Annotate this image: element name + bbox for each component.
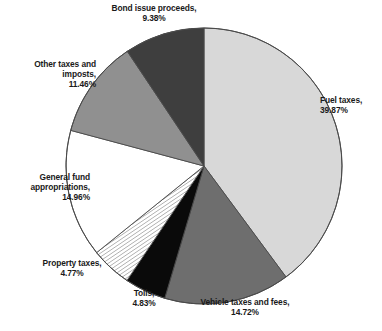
slice-label-vehicle-taxes-and-fees: Vehicle taxes and fees, 14.72% <box>180 297 310 317</box>
slice-label-other-taxes-and-imposts: Other taxes and imposts, 11.46% <box>2 59 96 90</box>
slice-label-fuel-taxes: Fuel taxes, 39.87% <box>320 95 382 115</box>
slice-label-bond-issue-proceeds: Bond issue proceeds, 9.38% <box>86 3 222 23</box>
pie-chart: Bond issue proceeds, 9.38% Other taxes a… <box>0 0 382 331</box>
slice-label-tolls: Tolls, 4.83% <box>118 288 170 308</box>
pie-chart-canvas <box>0 0 382 331</box>
slice-label-property-taxes: Property taxes, 4.77% <box>22 258 122 278</box>
slice-label-general-fund-appropriations: General fund appropriations, 14.96% <box>0 172 90 203</box>
